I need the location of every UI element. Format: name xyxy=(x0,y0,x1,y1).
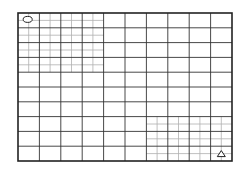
markers xyxy=(23,16,225,156)
grid-diagram xyxy=(0,0,244,176)
start-oval-icon xyxy=(23,16,32,22)
